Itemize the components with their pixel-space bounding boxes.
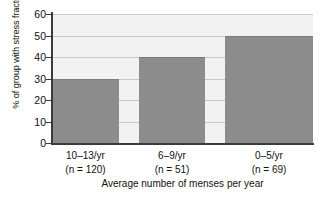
bar-category-1 (139, 57, 205, 143)
y-tick-label: 30 (2, 73, 46, 85)
y-axis-tick-labels: 0 10 20 30 40 50 60 (0, 0, 46, 203)
y-tick-label: 50 (2, 30, 46, 42)
x-category-label-1: 6–9/yr (n = 51) (139, 149, 205, 176)
x-category-name: 6–9/yr (158, 150, 186, 161)
x-category-label-2: 0–5/yr (n = 69) (225, 149, 313, 176)
x-category-name: 0–5/yr (255, 150, 283, 161)
x-axis-title: Average number of menses per year (52, 178, 313, 189)
y-tick-label: 0 (2, 137, 46, 149)
y-tick-label: 60 (2, 8, 46, 20)
bar-category-0 (52, 79, 119, 144)
y-tick-label: 20 (2, 94, 46, 106)
x-category-name: 10–13/yr (66, 150, 105, 161)
bar-chart: % of group with stress fractures 0 10 20… (0, 0, 329, 203)
x-category-count: (n = 51) (139, 163, 205, 177)
x-category-count: (n = 120) (52, 163, 119, 177)
gridline (52, 14, 313, 15)
y-tick-label: 40 (2, 51, 46, 63)
bar-category-2 (225, 36, 313, 144)
x-axis-line (51, 143, 314, 145)
y-tick-label: 10 (2, 116, 46, 128)
x-category-label-0: 10–13/yr (n = 120) (52, 149, 119, 176)
x-category-count: (n = 69) (225, 163, 313, 177)
y-axis-line (51, 12, 53, 145)
plot-area (52, 14, 313, 143)
